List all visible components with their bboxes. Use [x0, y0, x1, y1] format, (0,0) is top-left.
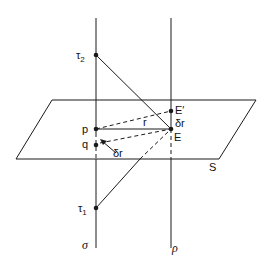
label-tau2: τ2 [76, 49, 85, 64]
label-delta-r-arrow: δr [113, 147, 123, 159]
label-q: q [82, 138, 88, 150]
segment-tau1-e-dashed [140, 129, 171, 159]
diagram-canvas: τ2 τ1 p q E E′ δr r δr S σ ρ [0, 0, 266, 266]
label-p: p [82, 123, 88, 135]
label-plane-s: S [209, 161, 216, 173]
point-p [94, 127, 99, 132]
segment-p-eprime [96, 111, 171, 129]
point-e-prime [169, 109, 174, 114]
point-q [94, 143, 99, 148]
label-r: r [143, 116, 147, 128]
label-e-prime: E′ [175, 104, 184, 116]
point-tau1 [94, 206, 99, 211]
label-rho: ρ [171, 241, 178, 255]
label-sigma: σ [82, 238, 89, 252]
diagram-svg: τ2 τ1 p q E E′ δr r δr S σ ρ [0, 0, 266, 266]
segment-q-e [100, 129, 171, 143]
label-delta-r-vertical: δr [175, 117, 185, 129]
point-e [169, 127, 174, 132]
point-tau2 [94, 53, 99, 58]
segment-tau2-e [96, 55, 171, 129]
label-e: E [174, 131, 181, 143]
label-tau1: τ1 [78, 202, 87, 217]
segment-tau1-e-lower [96, 159, 140, 208]
